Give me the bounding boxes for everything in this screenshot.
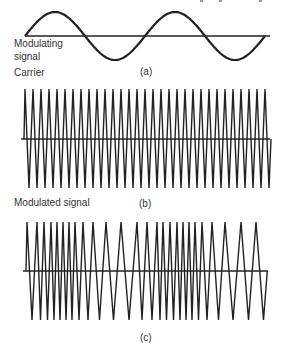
modulating-signal-wave <box>25 12 270 60</box>
caption-b: (b) <box>139 198 151 210</box>
modulating-signal-label-line2: signal <box>14 51 40 63</box>
fm-modulated-wave <box>23 222 268 320</box>
modulated-signal-label: Modulated signal <box>14 197 90 209</box>
carrier-label: Carrier <box>14 67 45 79</box>
waveform-canvas <box>0 0 283 358</box>
caption-c: (c) <box>140 332 152 344</box>
cropped-text-fragment <box>219 0 222 2</box>
modulating-signal-label-line1: Modulating <box>14 38 63 50</box>
carrier-wave <box>21 89 271 188</box>
cropped-text-fragment <box>259 0 262 2</box>
caption-a: (a) <box>140 66 152 78</box>
cropped-text-fragment <box>200 0 203 2</box>
